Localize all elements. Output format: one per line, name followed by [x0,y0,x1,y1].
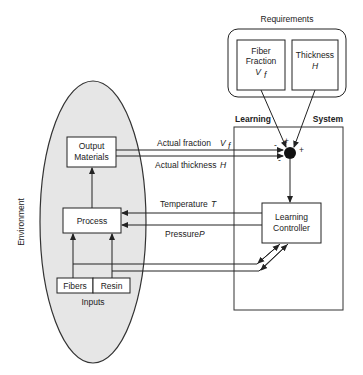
learning-system-label-right: System [313,114,344,124]
thickness-line1: Thickness [296,50,334,60]
learning-controller-line2: Controller [273,223,310,233]
temperature-label: Temperature [160,199,208,209]
resin-label: Resin [101,281,123,291]
process-label: Process [77,216,108,226]
actual-thickness-label: Actual thickness [155,160,216,170]
requirements-title: Requirements [261,14,314,24]
learning-controller-line1: Learning [275,212,308,222]
output-materials-line2: Materials [74,152,108,162]
junction-sign-top-left: + [284,136,289,146]
actual-fraction-symbol: V [220,138,227,148]
actual-thickness-symbol: H [220,160,227,170]
learning-control-diagram: Environment Requirements Fiber Fraction … [0,0,363,375]
temperature-symbol: T [211,199,217,209]
junction-sign-top-right: + [299,145,304,155]
fiber-fraction-line2: Fraction [246,56,277,66]
fiber-fraction-line1: Fiber [251,46,271,56]
pressure-label: Pressure [165,229,199,239]
fibers-label: Fibers [63,281,87,291]
inputs-label: Inputs [81,297,104,307]
junction-sign-left: - [274,140,277,150]
learning-system-label-left: Learning [235,114,271,124]
summing-junction [284,147,296,159]
controller-to-fibers-feed [258,244,280,263]
output-materials-line1: Output [79,141,105,151]
actual-fraction-label: Actual fraction [157,138,211,148]
thickness-symbol: H [312,61,319,71]
pressure-symbol: P [199,229,205,239]
environment-label: Environment [16,198,26,246]
